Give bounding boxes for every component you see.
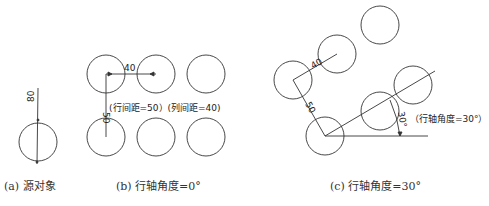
- source-axis-line: [37, 88, 38, 164]
- diagram-canvas: 80 40 50 (行间距=50）(列间距=40) 40 50 30° （行轴角…: [0, 0, 489, 206]
- angle-note-c: （行轴角度=30°）: [410, 113, 488, 124]
- source-point-bottom: [36, 161, 38, 163]
- source-circle: [19, 123, 57, 161]
- spacing-note-b: (行间距=50）(列间距=40): [109, 102, 221, 113]
- caption-c: (c) 行轴角度=30°: [330, 177, 421, 193]
- col-spacing-label-c: 40: [309, 56, 324, 71]
- caption-b: (b) 行轴角度=0°: [116, 177, 201, 193]
- panel-a-source-object: [19, 88, 57, 164]
- row-spacing-label-b: 50: [101, 112, 111, 124]
- source-point-top: [37, 119, 39, 121]
- col-spacing-label-b: 40: [124, 63, 136, 73]
- caption-a: (a) 源对象: [4, 177, 56, 193]
- panel-c-rotated-array: [274, 6, 435, 155]
- source-dim-label: 80: [26, 90, 36, 102]
